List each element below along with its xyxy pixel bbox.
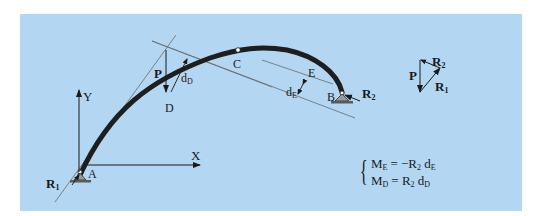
axis-y-label: Y bbox=[83, 89, 93, 104]
point-b-label: B bbox=[327, 90, 335, 104]
hinge-c bbox=[236, 48, 241, 53]
equation-md: MD= R2 dD bbox=[371, 173, 430, 189]
triangle-p-label: P bbox=[409, 68, 417, 83]
point-c-label: C bbox=[233, 57, 241, 71]
triangle-r2-label: R2 bbox=[432, 54, 445, 70]
arch-diagram: Y X A B C D E P dD dE R2 R1 P R2 R1 { ME… bbox=[0, 0, 541, 216]
axis-x-label: X bbox=[191, 148, 201, 163]
triangle-r1-label: R1 bbox=[435, 79, 448, 95]
force-r1-label: R1 bbox=[46, 176, 59, 192]
force-p-label: P bbox=[154, 66, 162, 81]
arch-beam bbox=[80, 48, 342, 175]
equation-me: ME= −R2 dE bbox=[371, 156, 436, 172]
distance-de-arrow bbox=[298, 84, 303, 94]
equation-brace: { bbox=[360, 153, 368, 186]
point-d-label: D bbox=[165, 101, 174, 115]
point-a-label: A bbox=[88, 167, 97, 181]
distance-dd-label: dD bbox=[181, 71, 193, 86]
point-e-label: E bbox=[308, 66, 315, 80]
distance-de-label: dE bbox=[286, 85, 297, 100]
force-r2-label: R2 bbox=[362, 86, 375, 102]
